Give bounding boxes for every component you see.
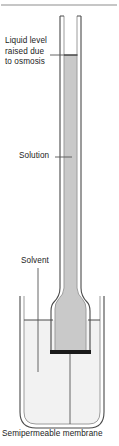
semipermeable-membrane-band bbox=[50, 350, 91, 354]
label-liquid-level: Liquid level raised due to osmosis bbox=[5, 36, 51, 68]
label-solution: Solution bbox=[19, 151, 49, 162]
label-solvent: Solvent bbox=[21, 256, 49, 267]
label-semipermeable-membrane: Semipermeable membrane bbox=[2, 429, 103, 440]
osmosis-diagram: Liquid level raised due to osmosis Solut… bbox=[0, 0, 119, 446]
